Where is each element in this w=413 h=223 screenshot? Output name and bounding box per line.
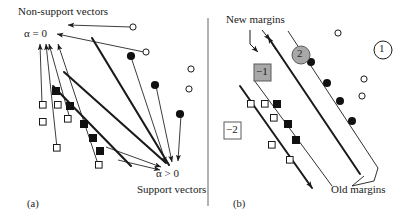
open-square xyxy=(55,102,62,109)
old-margins-label: Old margins xyxy=(331,184,386,195)
new-margin-upper xyxy=(268,37,360,174)
region-badge-two-label: 2 xyxy=(297,48,303,59)
region-badge-one-label: 1 xyxy=(379,43,385,54)
open-square xyxy=(262,101,269,108)
region-badge-minus-one-label: −1 xyxy=(256,66,268,77)
arrow-alpha0-b xyxy=(46,44,57,148)
non-support-vectors-label: Non-support vectors xyxy=(18,6,108,17)
open-square xyxy=(65,116,72,123)
open-square xyxy=(96,162,103,169)
open-square xyxy=(269,142,276,149)
open-square xyxy=(287,157,294,164)
alpha-positive-label: α > 0 xyxy=(156,168,179,179)
figure-canvas: Non-support vectors α = 0 α > 0 Support … xyxy=(0,0,413,223)
panel-b-group xyxy=(224,30,392,188)
region-badge-minus-two-label: −2 xyxy=(226,124,238,135)
filled-circle xyxy=(348,117,356,125)
arrow-alphapos-c xyxy=(156,86,172,162)
filled-circle xyxy=(151,81,159,89)
panel-b-filled-circles xyxy=(307,58,356,125)
arrow-alpha0-f xyxy=(58,44,98,164)
filled-circle xyxy=(127,52,135,60)
arrow-alpha0-e xyxy=(57,34,144,52)
filled-square xyxy=(80,120,88,128)
filled-square xyxy=(66,102,74,110)
filled-square xyxy=(52,87,60,95)
open-circle xyxy=(188,66,194,72)
open-circle xyxy=(186,86,192,92)
filled-square xyxy=(284,120,292,128)
filled-square xyxy=(273,100,281,108)
open-circle xyxy=(143,49,149,55)
open-square xyxy=(54,145,61,152)
open-square xyxy=(271,115,278,122)
open-circle xyxy=(359,93,365,99)
filled-circle xyxy=(336,97,344,105)
panel-b-caption: (b) xyxy=(233,199,245,210)
filled-circle xyxy=(323,79,331,87)
arrow-alphapos-e xyxy=(118,160,160,170)
open-circle xyxy=(130,24,136,30)
panel-a-caption: (a) xyxy=(27,199,39,210)
arrow-alpha0-d xyxy=(68,25,131,27)
open-square xyxy=(248,101,255,108)
panel-b-open-squares xyxy=(248,101,294,164)
new-margins-leader xyxy=(250,30,258,52)
new-margins-leader-2 xyxy=(262,30,270,40)
panel-a-group xyxy=(40,24,195,170)
new-margin-arrow-lower xyxy=(303,175,312,188)
open-circle xyxy=(361,76,367,82)
open-square xyxy=(40,102,47,109)
filled-square xyxy=(96,147,104,155)
arrow-alpha0-a xyxy=(40,44,42,104)
alpha-zero-label: α = 0 xyxy=(24,28,47,39)
old-margin-lower xyxy=(254,80,332,186)
panel-b-open-circles xyxy=(335,30,367,99)
support-vectors-label: Support vectors xyxy=(137,184,206,195)
filled-circle xyxy=(176,110,184,118)
open-square xyxy=(40,119,47,126)
filled-square xyxy=(292,136,300,144)
arrow-alphapos-d xyxy=(178,115,181,161)
new-margins-label: New margins xyxy=(226,14,285,25)
filled-square xyxy=(89,134,97,142)
open-circle xyxy=(335,30,341,36)
